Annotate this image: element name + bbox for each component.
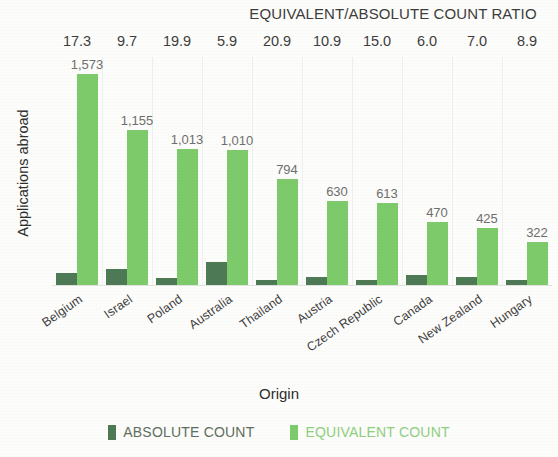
bar-group: 794	[252, 57, 302, 285]
bar-group: 1,013	[152, 57, 202, 285]
chart-title: EQUIVALENT/ABSOLUTE COUNT RATIO	[232, 5, 554, 22]
ratio-value: 20.9	[252, 31, 302, 51]
ratio-value: 5.9	[202, 31, 252, 51]
category-tick: Czech Republic	[352, 286, 402, 366]
bar-equivalent-count[interactable]	[427, 222, 448, 285]
bar-absolute-count[interactable]	[206, 262, 227, 285]
bar-pair	[502, 57, 552, 285]
category-tick: Thailand	[252, 286, 302, 366]
y-axis-title: Applications abroad	[15, 93, 31, 253]
category-tick: Israel	[102, 286, 152, 366]
bar-group: 1,010	[202, 57, 252, 285]
bar-pair	[102, 57, 152, 285]
legend-label: ABSOLUTE COUNT	[123, 424, 254, 440]
bar-absolute-count[interactable]	[406, 275, 427, 285]
bar-absolute-count[interactable]	[456, 277, 477, 285]
ratio-value: 15.0	[352, 31, 402, 51]
bar-equivalent-count[interactable]	[227, 150, 248, 285]
bar-group: 613	[352, 57, 402, 285]
ratio-value: 7.0	[452, 31, 502, 51]
chart-legend: ABSOLUTE COUNTEQUIVALENT COUNT	[0, 424, 558, 440]
bar-pair	[152, 57, 202, 285]
ratio-value: 10.9	[302, 31, 352, 51]
ratio-value: 19.9	[152, 31, 202, 51]
category-label: Israel	[101, 292, 135, 321]
bar-equivalent-count[interactable]	[127, 130, 148, 285]
legend-swatch-icon	[290, 425, 298, 440]
bar-pair	[202, 57, 252, 285]
bar-absolute-count[interactable]	[56, 273, 77, 285]
category-tick: Belgium	[52, 286, 102, 366]
bar-group: 470	[402, 57, 452, 285]
plot-area: 1,5731,1551,0131,010794630613470425322	[52, 57, 552, 285]
bar-group: 425	[452, 57, 502, 285]
bar-groups: 1,5731,1551,0131,010794630613470425322	[52, 57, 552, 285]
bar-absolute-count[interactable]	[106, 269, 127, 285]
bar-pair	[52, 57, 102, 285]
bar-group: 1,573	[52, 57, 102, 285]
legend-item[interactable]: EQUIVALENT COUNT	[290, 424, 449, 440]
bar-chart: EQUIVALENT/ABSOLUTE COUNT RATIO 17.39.71…	[0, 0, 558, 457]
legend-swatch-icon	[108, 425, 116, 440]
legend-item[interactable]: ABSOLUTE COUNT	[108, 424, 254, 440]
bar-equivalent-count[interactable]	[277, 179, 298, 285]
bar-equivalent-count[interactable]	[527, 242, 548, 285]
bar-pair	[452, 57, 502, 285]
category-tick: Hungary	[502, 286, 552, 366]
bar-pair	[402, 57, 452, 285]
bar-group: 322	[502, 57, 552, 285]
bar-absolute-count[interactable]	[306, 277, 327, 285]
bar-absolute-count[interactable]	[156, 278, 177, 285]
bar-group: 1,155	[102, 57, 152, 285]
bar-equivalent-count[interactable]	[477, 228, 498, 285]
bar-equivalent-count[interactable]	[177, 149, 198, 285]
ratio-value: 17.3	[52, 31, 102, 51]
bar-equivalent-count[interactable]	[77, 74, 98, 285]
legend-label: EQUIVALENT COUNT	[305, 424, 449, 440]
bar-pair	[302, 57, 352, 285]
ratio-value: 9.7	[102, 31, 152, 51]
bar-pair	[352, 57, 402, 285]
category-label: Belgium	[39, 292, 85, 330]
ratio-value: 8.9	[502, 31, 552, 51]
bar-equivalent-count[interactable]	[377, 203, 398, 285]
category-labels: BelgiumIsraelPolandAustraliaThailandAust…	[52, 286, 552, 366]
bar-group: 630	[302, 57, 352, 285]
bar-equivalent-count[interactable]	[327, 201, 348, 285]
ratio-axis-row: 17.39.719.95.920.910.915.06.07.08.9	[52, 31, 552, 51]
x-axis-title: Origin	[0, 385, 558, 402]
ratio-value: 6.0	[402, 31, 452, 51]
bar-value-label: 322	[512, 225, 558, 240]
